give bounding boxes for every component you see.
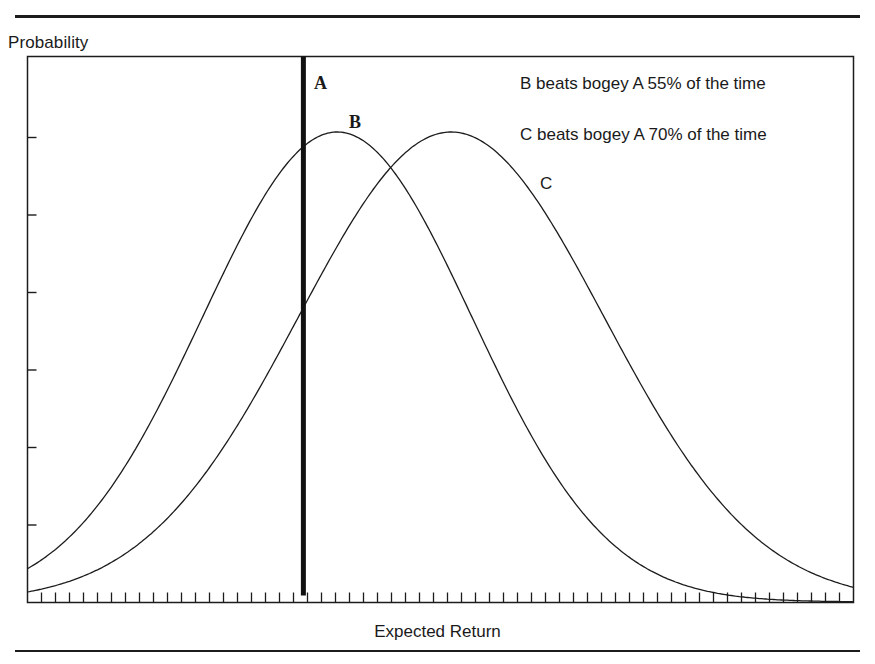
curve-b bbox=[28, 132, 854, 602]
curve-c bbox=[28, 132, 854, 592]
annotation-c-beats-a: C beats bogey A 70% of the time bbox=[520, 125, 767, 145]
label-a: A bbox=[314, 73, 327, 94]
bottom-rule bbox=[15, 650, 860, 652]
y-axis-ticks bbox=[28, 138, 37, 526]
label-c: C bbox=[540, 174, 552, 194]
label-b: B bbox=[349, 112, 361, 133]
chart-plot bbox=[0, 0, 875, 664]
annotation-b-beats-a: B beats bogey A 55% of the time bbox=[520, 74, 766, 94]
x-axis-label: Expected Return bbox=[0, 622, 875, 642]
